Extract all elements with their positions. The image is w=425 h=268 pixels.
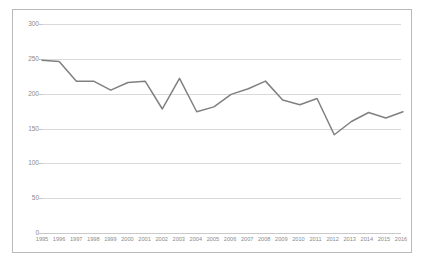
x-tick-label-1999: 1999 bbox=[104, 237, 116, 243]
x-tick-label-1997: 1997 bbox=[70, 237, 82, 243]
x-tick-label-2009: 2009 bbox=[275, 237, 287, 243]
x-tick-label-2012: 2012 bbox=[326, 237, 338, 243]
x-tick-label-1995: 1995 bbox=[36, 237, 48, 243]
x-tick-label-1998: 1998 bbox=[87, 237, 99, 243]
line-series-1 bbox=[42, 60, 403, 135]
x-tick-label-2006: 2006 bbox=[224, 237, 236, 243]
x-tick-label-2011: 2011 bbox=[310, 237, 322, 243]
x-tick-label-2008: 2008 bbox=[258, 237, 270, 243]
x-tick-label-2005: 2005 bbox=[207, 237, 219, 243]
x-tick-label-2003: 2003 bbox=[173, 237, 185, 243]
x-tick-label-2013: 2013 bbox=[343, 237, 355, 243]
x-tick-label-2000: 2000 bbox=[121, 237, 133, 243]
x-tick-label-2016: 2016 bbox=[395, 237, 407, 243]
x-tick-label-2010: 2010 bbox=[292, 237, 304, 243]
chart-frame: 050100150200250300 199519961997199819992… bbox=[12, 9, 412, 253]
x-axis: 1995199619971998199920002001200220032004… bbox=[42, 237, 401, 251]
x-tick-label-2015: 2015 bbox=[378, 237, 390, 243]
x-tick-label-2007: 2007 bbox=[241, 237, 253, 243]
x-tick-label-2001: 2001 bbox=[138, 237, 150, 243]
x-tick-label-2002: 2002 bbox=[155, 237, 167, 243]
line-series-layer bbox=[13, 10, 413, 254]
x-tick-label-2004: 2004 bbox=[190, 237, 202, 243]
x-tick-label-2014: 2014 bbox=[361, 237, 373, 243]
chart-plot-area: 050100150200250300 199519961997199819992… bbox=[13, 10, 411, 252]
x-tick-label-1996: 1996 bbox=[53, 237, 65, 243]
